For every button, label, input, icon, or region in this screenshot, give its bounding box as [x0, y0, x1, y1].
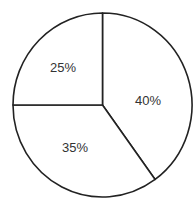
slice-label: 25%	[50, 60, 76, 75]
pie-slices	[13, 13, 192, 197]
slice-label: 35%	[62, 140, 88, 155]
pie-chart: 40%35%25%	[0, 0, 196, 210]
slice-label: 40%	[135, 93, 161, 108]
